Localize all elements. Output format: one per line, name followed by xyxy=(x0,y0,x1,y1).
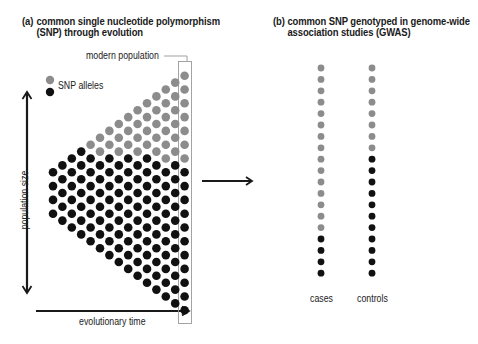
black-allele-dot xyxy=(96,175,105,184)
black-allele-dot xyxy=(171,161,180,170)
black-allele-dot xyxy=(105,196,114,205)
black-allele-dot xyxy=(143,237,152,246)
black-allele-dot xyxy=(152,216,161,225)
black-allele-dot xyxy=(49,182,58,191)
black-allele-dot xyxy=(180,278,189,287)
controls-black-allele-dot xyxy=(369,190,376,197)
black-allele-dot xyxy=(152,203,161,212)
black-allele-dot xyxy=(180,237,189,246)
gray-allele-dot xyxy=(162,85,171,94)
controls-gray-allele-dot xyxy=(369,99,376,106)
black-allele-dot xyxy=(115,216,124,225)
black-allele-dot xyxy=(86,209,95,218)
controls-gray-allele-dot xyxy=(369,110,376,117)
black-allele-dot xyxy=(96,161,105,170)
gray-allele-dot xyxy=(152,120,161,129)
black-allele-dot xyxy=(171,216,180,225)
gray-allele-dot xyxy=(96,147,105,156)
gray-allele-dot xyxy=(162,113,171,122)
gray-allele-dot xyxy=(143,127,152,136)
black-allele-dot xyxy=(124,168,133,177)
gray-allele-dot xyxy=(115,120,124,129)
controls-black-allele-dot xyxy=(369,167,376,174)
gray-allele-dot xyxy=(171,134,180,143)
black-allele-dot xyxy=(77,203,86,212)
black-allele-dot xyxy=(77,189,86,198)
black-allele-dot xyxy=(96,230,105,239)
gray-allele-dot xyxy=(105,140,114,149)
black-allele-dot xyxy=(143,265,152,274)
gray-allele-dot xyxy=(143,113,152,122)
gray-allele-dot xyxy=(152,92,161,101)
cases-black-allele-dot xyxy=(318,270,325,277)
gray-allele-dot xyxy=(133,120,142,129)
black-allele-dot xyxy=(133,161,142,170)
gray-allele-dot xyxy=(171,120,180,129)
black-allele-dot xyxy=(86,237,95,246)
black-allele-dot xyxy=(171,230,180,239)
black-allele-dot xyxy=(180,196,189,205)
cases-gray-allele-dot xyxy=(318,201,325,208)
population-size-arrow xyxy=(23,92,32,293)
diagram-canvas xyxy=(0,0,478,344)
black-allele-dot xyxy=(115,189,124,198)
black-allele-dot xyxy=(152,244,161,253)
controls-black-allele-dot xyxy=(369,179,376,186)
black-allele-dot xyxy=(96,216,105,225)
black-allele-dot xyxy=(68,209,77,218)
black-allele-dot xyxy=(96,189,105,198)
black-allele-dot xyxy=(180,265,189,274)
black-allele-dot xyxy=(162,209,171,218)
gray-allele-dot xyxy=(162,154,171,163)
black-allele-dot xyxy=(171,203,180,212)
gray-allele-dot xyxy=(162,99,171,108)
black-allele-dot xyxy=(49,209,58,218)
black-allele-dot xyxy=(133,258,142,267)
black-allele-dot xyxy=(162,278,171,287)
black-allele-dot xyxy=(162,251,171,260)
black-allele-dot xyxy=(68,182,77,191)
evolutionary-time-arrow xyxy=(36,307,189,316)
cases-black-allele-dot xyxy=(318,247,325,254)
black-allele-dot xyxy=(86,154,95,163)
black-allele-dot xyxy=(180,168,189,177)
black-allele-dot xyxy=(115,230,124,239)
cases-black-allele-dot xyxy=(318,258,325,265)
gray-allele-dot xyxy=(180,127,189,136)
black-allele-dot xyxy=(171,299,180,308)
gray-allele-dot xyxy=(162,140,171,149)
gray-allele-dot xyxy=(124,127,133,136)
gray-allele-dot xyxy=(152,106,161,115)
black-allele-dot xyxy=(68,223,77,232)
black-allele-dot xyxy=(133,272,142,281)
black-allele-dot xyxy=(96,203,105,212)
gray-allele-dot xyxy=(115,134,124,143)
black-allele-dot xyxy=(133,203,142,212)
black-allele-dot xyxy=(152,230,161,239)
cases-gray-allele-dot xyxy=(318,87,325,94)
black-allele-dot xyxy=(180,223,189,232)
black-allele-dot xyxy=(152,272,161,281)
black-allele-dot xyxy=(143,168,152,177)
cases-gray-allele-dot xyxy=(318,65,325,72)
black-allele-dot xyxy=(86,168,95,177)
black-allele-dot xyxy=(124,196,133,205)
gray-allele-dot xyxy=(180,113,189,122)
black-allele-dot xyxy=(133,189,142,198)
black-allele-dot xyxy=(133,175,142,184)
black-allele-dot xyxy=(68,168,77,177)
controls-gray-allele-dot xyxy=(369,87,376,94)
black-allele-dot xyxy=(162,223,171,232)
black-allele-dot xyxy=(77,230,86,239)
gray-allele-dot xyxy=(133,134,142,143)
black-allele-dot xyxy=(180,182,189,191)
black-allele-dot xyxy=(49,168,58,177)
black-allele-dot xyxy=(143,196,152,205)
black-allele-dot xyxy=(105,182,114,191)
cases-gray-allele-dot xyxy=(318,190,325,197)
black-allele-dot xyxy=(143,154,152,163)
black-allele-dot xyxy=(77,161,86,170)
black-allele-dot xyxy=(152,285,161,294)
black-allele-dot xyxy=(58,216,67,225)
black-allele-dot xyxy=(115,258,124,267)
